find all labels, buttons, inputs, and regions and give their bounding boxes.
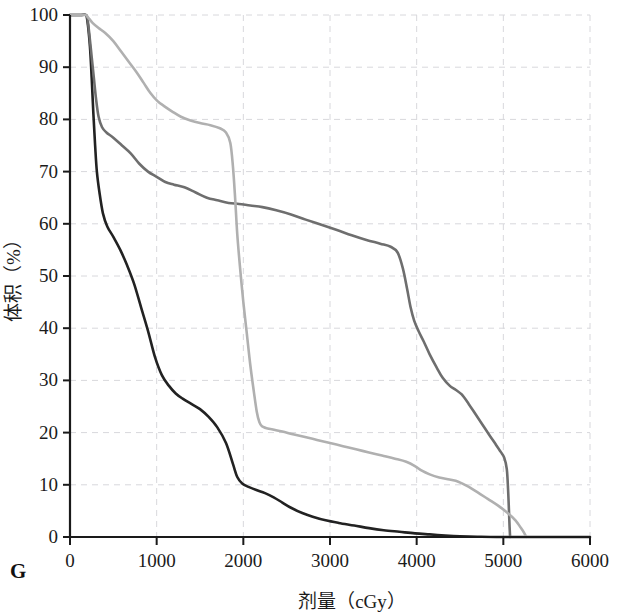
y-tick-label: 90	[39, 56, 58, 77]
y-tick-label: 10	[39, 474, 58, 495]
x-tick-label: 1000	[138, 550, 176, 571]
y-tick-label: 0	[49, 526, 59, 547]
x-tick-label: 0	[65, 550, 75, 571]
x-tick-label: 6000	[571, 550, 609, 571]
x-tick-label: 2000	[224, 550, 262, 571]
y-tick-label: 70	[39, 161, 58, 182]
y-tick-label: 100	[30, 4, 59, 25]
y-tick-label: 20	[39, 422, 58, 443]
y-tick-label: 30	[39, 369, 58, 390]
y-axis-title: 体积（%）	[3, 230, 24, 322]
y-tick-label: 50	[39, 265, 58, 286]
x-tick-label: 5000	[484, 550, 522, 571]
panel-letter-label: G	[10, 559, 26, 583]
y-tick-label: 80	[39, 108, 58, 129]
dvh-figure: 0102030405060708090100 01000200030004000…	[0, 0, 617, 616]
y-tick-label: 40	[39, 317, 58, 338]
x-tick-label: 3000	[311, 550, 349, 571]
x-axis-ticks: 0100020003000400050006000	[65, 537, 609, 571]
x-axis-title: 剂量（cGy）	[298, 591, 406, 612]
y-tick-label: 60	[39, 213, 58, 234]
y-axis-ticks: 0102030405060708090100	[30, 4, 71, 547]
dvh-chart-canvas: 0102030405060708090100 01000200030004000…	[0, 0, 617, 616]
x-tick-label: 4000	[398, 550, 436, 571]
